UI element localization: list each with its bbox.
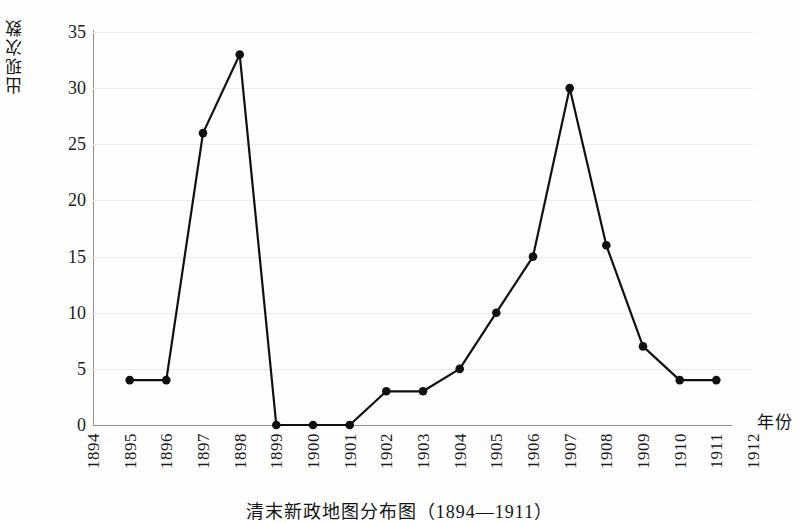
x-axis-tick-labels: 1894189518961897189818991900190119021903… [0,433,799,503]
x-tick-label: 1908 [597,433,617,469]
x-tick-label: 1903 [414,433,434,469]
x-tick-label: 1906 [524,433,544,469]
y-tick-label: 5 [46,358,86,379]
x-axis-title: 年份 [757,408,793,433]
y-tick-label: 35 [46,22,86,43]
y-tick-label: 10 [46,302,86,323]
gridline [93,257,753,258]
x-tick-label: 1894 [84,433,104,469]
x-tick-label: 1900 [304,433,324,469]
y-axis-title-text: 出现次数 [6,18,24,94]
x-tick-label: 1904 [451,433,471,469]
gridline [93,369,753,370]
gridline [93,88,753,89]
x-tick-label: 1901 [341,433,361,469]
y-axis-title: 出现次数 [6,18,32,168]
x-tick-label: 1899 [267,433,287,469]
y-tick-label: 20 [46,190,86,211]
x-tick-label: 1895 [121,433,141,469]
y-tick-label: 15 [46,246,86,267]
x-tick-label: 1898 [231,433,251,469]
x-tick-label: 1909 [634,433,654,469]
gridline [93,144,753,145]
x-tick-label: 1911 [707,433,727,468]
x-tick-label: 1905 [487,433,507,469]
x-tick-label: 1902 [377,433,397,469]
gridline [93,425,753,426]
y-tick-label: 30 [46,78,86,99]
x-tick-label: 1912 [744,433,764,469]
figure-caption: 清末新政地图分布图（1894—1911） [0,497,799,523]
x-tick-label: 1896 [157,433,177,469]
gridline [93,313,753,314]
gridline [93,200,753,201]
x-tick-label: 1907 [561,433,581,469]
x-tick-label: 1897 [194,433,214,469]
x-tick-label: 1910 [671,433,691,469]
gridline [93,32,753,33]
plot-area [93,32,753,425]
y-tick-label: 25 [46,134,86,155]
